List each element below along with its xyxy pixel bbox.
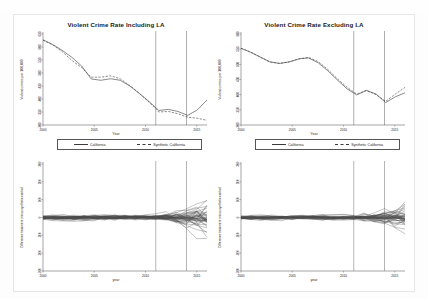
- panel-bottom-left: -300-200-10001002003002000200520102015Di…: [17, 154, 215, 290]
- svg-text:-200: -200: [236, 250, 240, 256]
- chart-grid: Violent Crime Rate Including LA 30035040…: [13, 14, 415, 292]
- svg-text:2000: 2000: [237, 274, 244, 278]
- x-axis-title-top-left: Year: [17, 132, 215, 136]
- svg-text:2000: 2000: [39, 274, 46, 278]
- svg-text:450: 450: [38, 83, 42, 88]
- svg-text:Violent crimes per 100,000: Violent crimes per 100,000: [20, 59, 24, 99]
- plot-bottom-right: -300-200-10001002003002000200520102015Di…: [215, 154, 413, 290]
- legend-swatch-solid: [272, 144, 286, 145]
- top-banner-strip: [0, 0, 428, 14]
- svg-text:200: 200: [38, 179, 42, 184]
- svg-text:200: 200: [236, 179, 240, 184]
- svg-text:2010: 2010: [142, 128, 149, 132]
- legend-entry-synthetic-california: Synthetic California: [335, 143, 383, 147]
- svg-text:2015: 2015: [193, 274, 200, 278]
- svg-text:Violent crimes per 100,000: Violent crimes per 100,000: [218, 59, 222, 99]
- legend-label-california: California: [90, 143, 106, 147]
- svg-text:2005: 2005: [289, 274, 296, 278]
- svg-text:-100: -100: [38, 232, 42, 238]
- svg-text:350: 350: [236, 107, 240, 112]
- svg-text:2005: 2005: [91, 128, 98, 132]
- figure-page: Violent Crime Rate Including LA 30035040…: [0, 0, 428, 299]
- legend-entry-california: California: [74, 143, 106, 147]
- svg-text:450: 450: [236, 77, 240, 82]
- legend-label-california: California: [288, 143, 304, 147]
- svg-text:-100: -100: [236, 232, 240, 238]
- svg-text:2015: 2015: [193, 128, 200, 132]
- svg-text:300: 300: [38, 161, 42, 166]
- legend-swatch-dashed: [137, 144, 151, 145]
- legend-label-synthetic-california: Synthetic California: [351, 143, 383, 147]
- svg-text:2015: 2015: [391, 274, 398, 278]
- svg-text:600: 600: [236, 31, 240, 36]
- legend-entry-california: California: [272, 143, 304, 147]
- svg-text:0: 0: [38, 216, 42, 218]
- svg-text:550: 550: [38, 57, 42, 62]
- plot-bottom-left: -300-200-10001002003002000200520102015Di…: [17, 154, 215, 290]
- svg-text:350: 350: [38, 109, 42, 114]
- legend-label-synthetic-california: Synthetic California: [153, 143, 185, 147]
- svg-text:2000: 2000: [39, 128, 46, 132]
- panel-bottom-right: -300-200-10001002003002000200520102015Di…: [215, 154, 413, 290]
- x-axis-title-bottom-left: year: [17, 278, 215, 282]
- x-axis-title-bottom-right: year: [215, 278, 413, 282]
- legend-swatch-solid: [74, 144, 88, 145]
- svg-text:100: 100: [38, 197, 42, 202]
- panel-top-left: Violent Crime Rate Including LA 30035040…: [17, 18, 215, 154]
- svg-text:2010: 2010: [340, 274, 347, 278]
- svg-text:2000: 2000: [237, 128, 244, 132]
- svg-text:Difference treatment minus syn: Difference treatment minus synthetic con…: [218, 187, 222, 248]
- svg-text:650: 650: [38, 31, 42, 36]
- svg-text:0: 0: [236, 216, 240, 218]
- x-axis-title-top-right: Year: [215, 132, 413, 136]
- legend-swatch-dashed: [335, 144, 349, 145]
- svg-text:300: 300: [236, 161, 240, 166]
- panel-top-right: Violent Crime Rate Excluding LA 30035040…: [215, 18, 413, 154]
- svg-text:100: 100: [236, 197, 240, 202]
- svg-text:-200: -200: [38, 250, 42, 256]
- legend-top-left: California Synthetic California: [57, 139, 202, 150]
- svg-text:2005: 2005: [289, 128, 296, 132]
- svg-text:550: 550: [236, 46, 240, 51]
- svg-text:500: 500: [38, 70, 42, 75]
- legend-top-right: California Synthetic California: [255, 139, 400, 150]
- svg-text:400: 400: [38, 96, 42, 101]
- svg-text:2010: 2010: [142, 274, 149, 278]
- svg-text:400: 400: [236, 92, 240, 97]
- svg-text:2010: 2010: [340, 128, 347, 132]
- svg-text:500: 500: [236, 61, 240, 66]
- svg-text:2015: 2015: [391, 128, 398, 132]
- legend-entry-synthetic-california: Synthetic California: [137, 143, 185, 147]
- svg-text:Difference treatment minus syn: Difference treatment minus synthetic con…: [20, 187, 24, 248]
- svg-text:2005: 2005: [91, 274, 98, 278]
- svg-text:600: 600: [38, 44, 42, 49]
